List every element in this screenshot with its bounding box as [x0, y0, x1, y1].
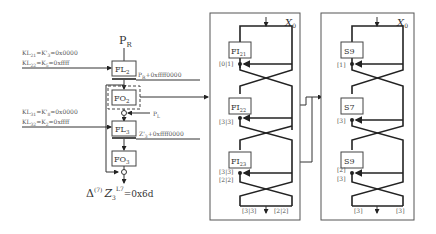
- key-kl32: KL32=K2=0xffff: [22, 118, 70, 127]
- s9-bottom-tag: [2]: [337, 166, 346, 173]
- xor-pl-icon: [122, 111, 127, 116]
- input-pr-label: PR: [119, 34, 132, 49]
- right-out-left: [3]: [354, 207, 363, 214]
- fl3-out-label: Z'3+0xffff0000: [139, 130, 184, 139]
- fi23-tag2: [2|2]: [219, 176, 233, 184]
- xor-out-icon: [122, 170, 127, 175]
- s9-top-label: S9: [344, 47, 355, 56]
- fi-panel-frame: [210, 13, 300, 220]
- s9-bottom-tag2: [3]: [337, 175, 346, 182]
- middle-panel: X0 FI21 [0|1] FI22 [3|3] FI23 [3|3] [2|2…: [210, 13, 300, 220]
- key-kl22: KL22=K5=0xffff: [22, 59, 70, 68]
- fl2-out-label: PR+0xffff0000: [138, 71, 182, 80]
- pl-label: PL: [153, 110, 160, 119]
- mid-out-left: [3|3]: [242, 207, 256, 215]
- right-panel: X0 S9 [1] S7 [3] S9 [2] [3] [3] [3]: [321, 13, 414, 220]
- s-panel-frame: [321, 13, 414, 220]
- s9-bottom-label: S9: [344, 157, 355, 166]
- result-equation: Δ(7)Z3L7=0x6d: [86, 185, 154, 201]
- right-out-right: [3]: [396, 207, 405, 214]
- fi22-tag: [3|3]: [219, 118, 233, 126]
- fi23-tag: [3|3]: [219, 168, 233, 176]
- fi21-tag: [0|1]: [219, 60, 233, 68]
- key-kl21: KL21=K'3=0x0000: [22, 49, 78, 58]
- s9-top-tag: [1]: [337, 61, 346, 68]
- s7-tag: [3]: [337, 117, 346, 124]
- key-kl31: KL31=K'8=0x0000: [22, 108, 78, 117]
- fo-function-diagram: PR KL21=K'3=0x0000 KL22=K5=0xffff FL2 PR…: [0, 0, 436, 234]
- s7-label: S7: [344, 103, 355, 112]
- mid-out-right: [2|2]: [274, 207, 288, 215]
- left-chain: PR KL21=K'3=0x0000 KL22=K5=0xffff FL2 PR…: [22, 34, 208, 201]
